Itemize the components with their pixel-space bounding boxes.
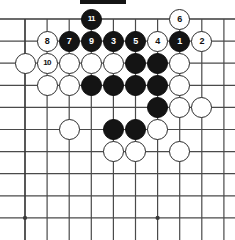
move-stone-black-5: 5 <box>125 31 146 52</box>
white-stone <box>169 75 190 96</box>
move-number-label: 2 <box>199 37 204 46</box>
white-stone <box>59 119 80 140</box>
white-stone <box>15 53 36 74</box>
black-stone <box>125 75 146 96</box>
black-stone <box>147 75 168 96</box>
black-stone <box>103 75 124 96</box>
white-stone <box>169 97 190 118</box>
white-stone <box>169 53 190 74</box>
black-stone <box>125 53 146 74</box>
move-number-label: 7 <box>67 37 72 46</box>
white-stone <box>37 75 58 96</box>
move-number-label: 11 <box>88 15 95 23</box>
move-stone-white-6: 6 <box>169 9 190 30</box>
move-stone-white-4: 4 <box>147 31 168 52</box>
move-number-label: 4 <box>155 37 160 46</box>
black-stone <box>147 53 168 74</box>
go-board-diagram: 1187935412610 <box>0 0 235 240</box>
move-stone-black-3: 3 <box>103 31 124 52</box>
white-stone <box>59 53 80 74</box>
move-stone-white-2: 2 <box>191 31 212 52</box>
move-number-label: 3 <box>111 37 116 46</box>
white-stone <box>59 75 80 96</box>
move-stone-black-1: 1 <box>169 31 190 52</box>
star-point <box>156 216 160 220</box>
move-stone-black-7: 7 <box>59 31 80 52</box>
white-stone <box>103 141 124 162</box>
move-number-label: 5 <box>133 37 138 46</box>
white-stone <box>125 141 146 162</box>
white-stone <box>103 53 124 74</box>
star-point <box>23 216 27 220</box>
move-number-label: 8 <box>45 37 50 46</box>
move-number-label: 10 <box>43 59 51 67</box>
move-number-label: 6 <box>177 15 182 24</box>
black-stone <box>125 119 146 140</box>
move-stone-black-11: 11 <box>81 9 102 30</box>
white-stone <box>147 119 168 140</box>
move-stone-black-9: 9 <box>81 31 102 52</box>
move-stone-white-10: 10 <box>37 53 58 74</box>
move-number-label: 1 <box>177 37 182 46</box>
black-stone <box>81 75 102 96</box>
move-number-label: 9 <box>89 37 94 46</box>
black-stone <box>147 97 168 118</box>
black-stone <box>103 119 124 140</box>
white-stone <box>81 53 102 74</box>
move-stone-white-8: 8 <box>37 31 58 52</box>
top-marker-bar <box>80 0 126 4</box>
